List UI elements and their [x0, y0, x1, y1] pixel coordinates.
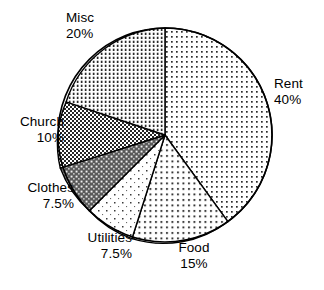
pie-label-rent-name: Rent	[274, 76, 324, 92]
cut-off-text	[2, 281, 6, 285]
pie-chart-figure: Misc 20% Rent 40% Church 10% Clothes 7.5…	[0, 0, 324, 290]
pie-label-utilities-value: 7.5%	[56, 246, 132, 262]
cut-off-text-strip	[0, 281, 324, 290]
pie-label-rent-value: 40%	[274, 92, 324, 108]
pie-label-rent: Rent 40%	[274, 76, 324, 107]
pie-label-church: Church 10%	[2, 114, 64, 145]
pie-label-clothes-name: Clothes	[2, 180, 74, 196]
pie-label-misc-name: Misc	[66, 10, 130, 26]
pie-label-food-name: Food	[163, 240, 225, 256]
pie-label-church-name: Church	[2, 114, 64, 130]
pie-label-food: Food 15%	[163, 240, 225, 271]
pie-label-misc-value: 20%	[66, 26, 130, 42]
pie-label-misc: Misc 20%	[66, 10, 130, 41]
pie-label-utilities: Utilities 7.5%	[56, 230, 132, 261]
pie-label-clothes: Clothes 7.5%	[2, 180, 74, 211]
pie-label-utilities-name: Utilities	[56, 230, 132, 246]
pie-label-food-value: 15%	[163, 256, 225, 272]
pie-chart-svg	[0, 0, 324, 290]
pie-label-church-value: 10%	[2, 130, 64, 146]
pie-label-clothes-value: 7.5%	[2, 196, 74, 212]
